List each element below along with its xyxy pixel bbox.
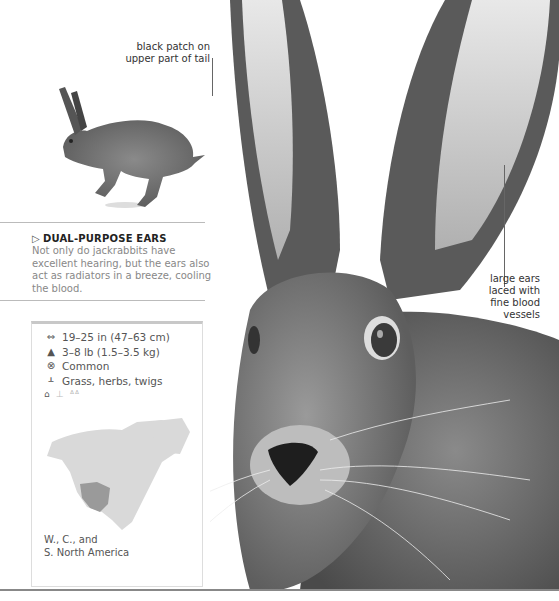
range-line-1: W., C., and <box>44 534 129 547</box>
fact-weight: ▲ 3–8 lb (1.5–3.5 kg) <box>44 345 202 360</box>
tail-callout: black patch on upper part of tail <box>120 41 210 65</box>
grassland-icon: ᐞᐞ <box>70 389 80 399</box>
fact-length: ⇔ 19–25 in (47–63 cm) <box>44 330 202 345</box>
fact-status: ⊗ Common <box>44 359 202 374</box>
weight-icon: ▲ <box>44 345 58 360</box>
fact-diet: ᚆ Grass, herbs, twigs <box>44 374 202 389</box>
fact-length-text: 19–25 in (47–63 cm) <box>62 330 170 345</box>
tail-callout-line-2: upper part of tail <box>120 53 210 65</box>
fact-diet-text: Grass, herbs, twigs <box>62 374 163 389</box>
triangle-marker-icon: ▷ <box>32 233 40 244</box>
ears-callout-line-2: laced with <box>440 285 540 297</box>
section-heading: ▷DUAL-PURPOSE EARS <box>32 233 217 244</box>
ears-callout: large ears laced with fine blood vessels <box>440 273 540 321</box>
fact-status-text: Common <box>62 359 109 374</box>
page-bottom-rule <box>0 589 559 591</box>
running-hare-illustration <box>45 85 205 215</box>
ears-callout-line-4: vessels <box>440 309 540 321</box>
range-description: W., C., and S. North America <box>44 534 129 559</box>
ears-leader-line <box>504 165 505 287</box>
dual-purpose-ears-section: ▷DUAL-PURPOSE EARS Not only do jackrabbi… <box>32 233 217 295</box>
habitat-icons: ⌂ ⊥ ᐞᐞ <box>44 389 202 399</box>
section-top-divider <box>0 222 205 223</box>
diet-icon: ᚆ <box>44 374 58 389</box>
section-heading-text: DUAL-PURPOSE EARS <box>43 233 167 244</box>
species-fact-box: ⇔ 19–25 in (47–63 cm) ▲ 3–8 lb (1.5–3.5 … <box>31 321 203 587</box>
tail-callout-line-1: black patch on <box>120 41 210 53</box>
status-icon: ⊗ <box>44 359 58 374</box>
ears-callout-line-3: fine blood <box>440 297 540 309</box>
range-line-2: S. North America <box>44 547 129 560</box>
section-body: Not only do jackrabbits have excellent h… <box>32 245 217 295</box>
range-map <box>42 412 192 532</box>
section-bottom-divider <box>0 300 205 301</box>
ears-callout-line-1: large ears <box>440 273 540 285</box>
desert-plant-icon: ⊥ <box>56 389 64 399</box>
home-icon: ⌂ <box>44 389 50 399</box>
length-icon: ⇔ <box>44 330 58 345</box>
fact-weight-text: 3–8 lb (1.5–3.5 kg) <box>62 345 160 360</box>
